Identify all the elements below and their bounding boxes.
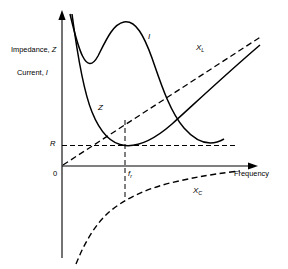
capacitive-reactance-label: XC xyxy=(193,187,202,195)
resonant-frequency-tick-label: fr xyxy=(128,170,132,178)
origin-label: 0 xyxy=(53,170,57,178)
current-curve-label: I xyxy=(148,33,150,41)
inductive-reactance-label: XL xyxy=(196,44,204,52)
y-axis-label-impedance: Impedance, Z xyxy=(11,46,56,53)
rlc-resonance-figure: Impedance, Z Current, I 0 R fr Frequency… xyxy=(0,0,288,269)
r-tick-label: R xyxy=(50,140,55,148)
plot-area xyxy=(0,0,288,269)
current-curve xyxy=(70,14,224,143)
x-axis-label-frequency: Frequency xyxy=(234,170,269,177)
y-axis-label-current: Current, I xyxy=(17,69,48,76)
impedance-curve-label: Z xyxy=(98,104,103,112)
capacitive-reactance-curve xyxy=(76,171,240,264)
impedance-curve xyxy=(72,14,260,146)
x-axis xyxy=(62,162,258,169)
y-axis xyxy=(58,10,65,258)
